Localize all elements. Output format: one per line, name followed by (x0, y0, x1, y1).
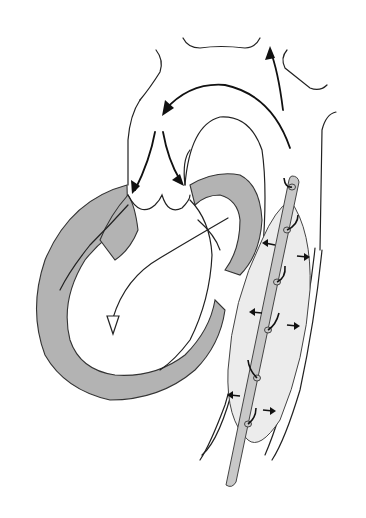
flow-arrows (131, 46, 290, 194)
head-neck-vessels (140, 38, 336, 250)
arrow-up-icon (265, 46, 275, 60)
arrow-down-right-icon (172, 174, 184, 186)
aortic-valve (128, 195, 190, 210)
heart-balloon-pump-diagram (0, 0, 366, 518)
open-arrowhead-icon (107, 316, 119, 334)
